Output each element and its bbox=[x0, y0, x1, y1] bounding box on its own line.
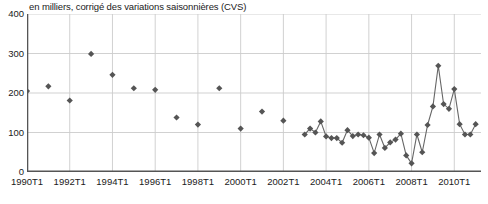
series-line-1 bbox=[305, 66, 476, 164]
data-point-marker bbox=[109, 72, 115, 78]
x-axis-tick-label: 2008T1 bbox=[395, 176, 427, 187]
x-axis-tick-label: 1996T1 bbox=[139, 176, 171, 187]
x-axis-tick-label: 2006T1 bbox=[353, 176, 385, 187]
data-point-marker bbox=[45, 83, 51, 89]
data-point-marker bbox=[238, 125, 244, 131]
x-axis-tick-label: 1994T1 bbox=[96, 176, 128, 187]
data-point-marker bbox=[403, 152, 409, 158]
x-axis-tick-label: 2000T1 bbox=[225, 176, 257, 187]
data-point-marker bbox=[328, 135, 334, 141]
data-point-marker bbox=[323, 133, 329, 139]
series-markers bbox=[27, 51, 479, 167]
data-point-marker bbox=[408, 160, 414, 166]
data-point-marker bbox=[451, 86, 457, 92]
data-point-marker bbox=[371, 150, 377, 156]
x-axis-tick-label: 2004T1 bbox=[310, 176, 342, 187]
data-point-marker bbox=[360, 132, 366, 138]
data-point-marker bbox=[280, 118, 286, 124]
data-point-marker bbox=[419, 149, 425, 155]
x-axis-tick-label: 2002T1 bbox=[267, 176, 299, 187]
data-point-marker bbox=[424, 122, 430, 128]
data-point-marker bbox=[67, 97, 73, 103]
x-axis-tick-label: 1998T1 bbox=[182, 176, 214, 187]
horizontal-gridlines bbox=[27, 14, 481, 133]
y-axis-tick-label: 100 bbox=[0, 127, 24, 138]
x-axis-tick-label: 1992T1 bbox=[54, 176, 86, 187]
chart-subtitle: en milliers, corrigé des variations sais… bbox=[29, 1, 246, 12]
data-point-marker bbox=[259, 108, 265, 114]
data-point-marker bbox=[435, 63, 441, 69]
data-point-marker bbox=[473, 121, 479, 127]
plot-area bbox=[27, 14, 481, 172]
data-point-marker bbox=[430, 103, 436, 109]
data-point-marker bbox=[318, 118, 324, 124]
y-axis-tick-label: 200 bbox=[0, 87, 24, 98]
x-axis-tick-label: 1990T1 bbox=[11, 176, 43, 187]
data-point-marker bbox=[131, 85, 137, 91]
x-axis-tick-label: 2010T1 bbox=[438, 176, 470, 187]
x-axis-labels: 1990T11992T11994T11996T11998T12000T12002… bbox=[0, 176, 488, 190]
chart-plot-svg bbox=[27, 14, 481, 172]
series-lines bbox=[305, 66, 476, 164]
data-point-marker bbox=[173, 114, 179, 120]
y-axis-tick-label: 300 bbox=[0, 48, 24, 59]
data-point-marker bbox=[152, 87, 158, 93]
y-axis-tick-label: 400 bbox=[0, 8, 24, 19]
data-point-marker bbox=[366, 135, 372, 141]
data-point-marker bbox=[195, 122, 201, 128]
data-point-marker bbox=[216, 85, 222, 91]
chart-container: en milliers, corrigé des variations sais… bbox=[0, 0, 488, 204]
data-point-marker bbox=[457, 121, 463, 127]
data-point-marker bbox=[88, 51, 94, 57]
y-axis-labels: 0100200300400 bbox=[0, 0, 27, 204]
